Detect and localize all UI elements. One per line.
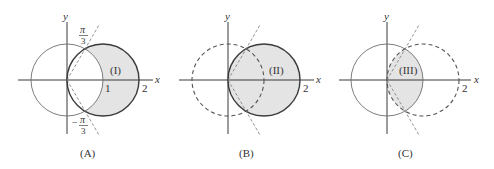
panel-b: y x 2 (II) (B) [179,10,321,160]
y-axis-label: y [383,10,389,22]
x-axis-label: x [473,73,479,85]
x-axis-label: x [154,73,160,85]
caption-a: (A) [80,147,96,160]
tick-label-1: 1 [105,82,111,94]
panel-a: y x 1 2 (I) π 3 − π 3 (A) [18,10,160,160]
angle-label-minus-pi-over-3: − π 3 [72,114,88,136]
region-label-ii: (II) [269,64,284,77]
tick-label-2: 2 [462,82,468,94]
caption-c: (C) [398,147,413,160]
y-axis-label: y [224,10,230,22]
svg-text:π: π [80,24,86,35]
panel-c: y x 2 (III) (C) [339,10,479,160]
region-label-iii: (III) [399,64,418,77]
x-axis-label: x [315,73,321,85]
region-label-i: (I) [110,64,121,77]
angle-label-pi-over-3: π 3 [79,24,88,46]
y-axis-label: y [62,10,68,22]
svg-text:π: π [80,114,86,125]
svg-text:3: 3 [81,126,86,136]
caption-b: (B) [239,147,254,160]
svg-text:−: − [72,117,78,128]
tick-label-2: 2 [303,82,309,94]
polar-regions-figure: y x 1 2 (I) π 3 − π 3 (A) y x 2 (II) [0,0,494,169]
svg-text:3: 3 [81,36,86,46]
tick-label-2: 2 [142,82,148,94]
